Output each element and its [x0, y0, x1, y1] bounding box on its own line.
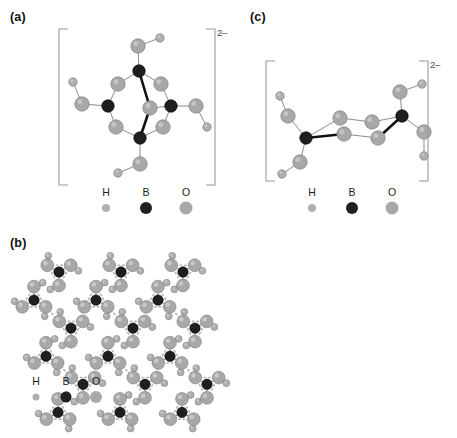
panel-a-legend-dots [96, 199, 196, 217]
panel-a-bracket-left [57, 28, 69, 186]
lattice-atom-h [169, 252, 176, 259]
lattice-atom-b [153, 295, 163, 305]
lattice-atom-h [115, 369, 122, 376]
lattice-atom-h [57, 309, 64, 316]
diborate-atom-o-2 [333, 111, 347, 125]
triborate-atom-o-9 [131, 39, 145, 53]
diborate-atom-h-9 [278, 170, 286, 178]
lattice-atom-b [165, 351, 175, 361]
lattice-atom-h [189, 425, 196, 432]
panel-c-charge: 2– [430, 59, 440, 70]
lattice-atom-b [178, 267, 188, 277]
lattice-atom-h [193, 365, 200, 372]
lattice-atom-o [201, 391, 214, 404]
lattice-atom-o [40, 413, 53, 426]
lattice-atom-o [140, 300, 153, 313]
lattice-atom-b [103, 351, 113, 361]
lattice-atom-h [103, 313, 110, 320]
panel-a-legend: H B O [96, 186, 196, 217]
triborate-atom-h-12 [69, 78, 77, 86]
panel-c-bracket-left [264, 60, 276, 182]
lattice-atom-o [152, 357, 165, 370]
triborate-atom-o-4 [111, 77, 125, 91]
legend-letter-b: B [142, 186, 149, 198]
diborate-atom-o-8 [293, 155, 307, 169]
lattice-atom-h [65, 425, 72, 432]
lattice-atom-o [139, 391, 152, 404]
lattice-atom-o [115, 279, 128, 292]
legend-letter-o: O [182, 186, 190, 198]
lattice-atom-b [41, 351, 51, 361]
lattice-atom-o [53, 315, 66, 328]
diborate-atom-o-6 [281, 109, 295, 123]
lattice-atom-b [202, 379, 212, 389]
legend-dot-oxygen [386, 202, 399, 215]
lattice-atom-o [28, 357, 41, 370]
lattice-atom-o [16, 300, 29, 313]
diborate-anion-diagram [268, 58, 438, 183]
panel-a-label: (a) [10, 10, 26, 24]
diborate-atom-b-0 [300, 132, 312, 144]
panel-a-legend-letters: H B O [96, 186, 196, 199]
lattice-atom-h [107, 252, 114, 259]
diborate-atom-o-10 [393, 85, 407, 99]
lattice-atom-o [200, 315, 213, 328]
lattice-atom-o [138, 315, 151, 328]
lattice-atom-o [164, 336, 177, 349]
panel-b-legend-letters: H B O [28, 375, 108, 388]
lattice-atom-o [187, 413, 200, 426]
lattice-atom-o [212, 371, 225, 384]
lattice-atom-o [113, 357, 126, 370]
lattice-atom-b [91, 295, 101, 305]
panel-b-structure [6, 246, 336, 436]
lattice-atom-h [119, 309, 126, 316]
legend-letter-o: O [388, 186, 396, 198]
lattice-atom-o [114, 393, 127, 406]
lattice-atom-h [165, 313, 172, 320]
triborate-anion-diagram [58, 24, 218, 184]
lattice-atom-o [102, 336, 115, 349]
lattice-atom-o [63, 413, 76, 426]
lattice-atom-o [177, 279, 190, 292]
lattice-atom-o [175, 357, 188, 370]
lattice-atom-o [188, 259, 201, 272]
triborate-atom-o-6 [109, 120, 123, 134]
lattice-atom-o [127, 335, 140, 348]
legend-letter-h: H [308, 186, 316, 198]
triborate-atom-o-15 [133, 157, 147, 171]
lattice-atom-o [90, 280, 103, 293]
triborate-atom-o-7 [156, 120, 170, 134]
triborate-atom-h-16 [114, 169, 122, 177]
lattice-atom-b [66, 323, 76, 333]
panel-c-legend-dots [302, 199, 402, 217]
legend-dot-hydrogen [102, 204, 110, 212]
legend-dot-boron [346, 202, 358, 214]
lattice-atom-h [69, 365, 76, 372]
panel-a: (a) 2– H B O [0, 0, 240, 228]
diborate-atom-b-1 [396, 110, 408, 122]
lattice-atom-o [40, 336, 53, 349]
lattice-atom-h [181, 309, 188, 316]
legend-dot-hydrogen [33, 394, 40, 401]
legend-dot-oxygen [180, 202, 193, 215]
lattice-atom-o [53, 279, 66, 292]
triborate-atom-o-13 [189, 99, 203, 113]
lattice-atom-o [125, 413, 138, 426]
panel-b-legend: H B O [28, 375, 108, 406]
diborate-atom-o-5 [371, 131, 385, 145]
lattice-atom-o [127, 371, 140, 384]
triborate-atom-b-3 [134, 132, 146, 144]
lattice-atom-o [164, 413, 177, 426]
lattice-atom-o [28, 280, 41, 293]
panel-b-legend-dots [28, 388, 108, 406]
lattice-atom-b [54, 267, 64, 277]
lattice-atom-o [189, 335, 202, 348]
lattice-atom-b [177, 407, 187, 417]
legend-dot-boron [140, 202, 152, 214]
lattice-atom-o [176, 393, 189, 406]
lattice-atom-o [39, 300, 52, 313]
triborate-atom-b-0 [133, 65, 145, 77]
lattice-atom-o [64, 259, 77, 272]
lattice-atom-o [65, 335, 78, 348]
lattice-atom-h [131, 365, 138, 372]
